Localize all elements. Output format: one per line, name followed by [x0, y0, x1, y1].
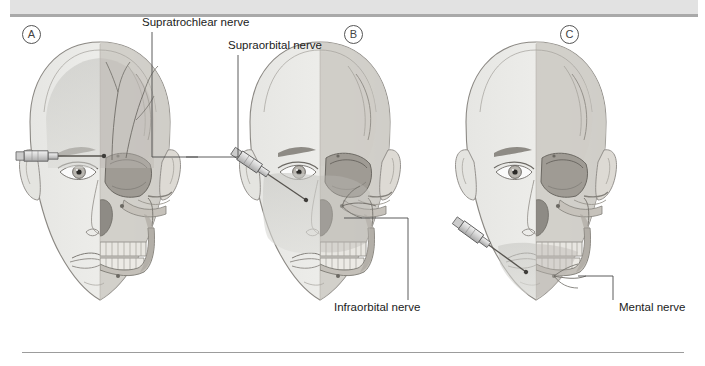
panel-c-illustration	[452, 42, 617, 300]
top-band	[10, 0, 698, 14]
label-supraorbital-nerve: Supraorbital nerve	[228, 39, 322, 51]
leader-infraorbital	[344, 218, 408, 300]
label-mental-nerve: Mental nerve	[619, 301, 685, 313]
panel-b-illustration	[230, 42, 400, 300]
panel-a-illustration	[16, 42, 181, 300]
leader-supraorbital	[186, 55, 238, 157]
leader-supratrochlear	[152, 32, 198, 157]
label-infraorbital-nerve: Infraorbital nerve	[334, 301, 420, 313]
panel-letter-c: C	[560, 25, 579, 44]
leader-lines	[152, 32, 613, 300]
top-rule	[10, 14, 698, 17]
panel-letter-b: B	[344, 25, 363, 44]
leader-mental	[578, 276, 613, 300]
panel-letter-a: A	[22, 25, 41, 44]
anatomy-figure: A B C Supratrochlear nerve Supraorbital …	[0, 0, 705, 366]
bottom-rule	[22, 352, 684, 353]
label-supratrochlear-nerve: Supratrochlear nerve	[142, 16, 249, 28]
